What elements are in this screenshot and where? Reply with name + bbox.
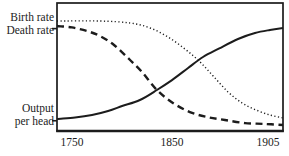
output-per-head-label: Output per head (0, 102, 54, 128)
death-rate-label: Death rate (0, 24, 54, 37)
curve-labels-top: Birth rate Death rate (0, 11, 54, 37)
output-label-line2: per head (0, 115, 54, 128)
output-label-line1: Output (0, 102, 54, 115)
death-rate-curve (57, 26, 283, 125)
x-tick-1905: 1905 (257, 135, 280, 149)
output-per-head-curve (57, 28, 283, 119)
plot-frame (57, 3, 283, 131)
demographic-transition-chart: Birth rate Death rate Output per head 17… (0, 0, 289, 156)
x-tick-1850: 1850 (161, 135, 184, 149)
birth-rate-label: Birth rate (0, 11, 54, 24)
x-tick-1750: 1750 (60, 135, 83, 149)
